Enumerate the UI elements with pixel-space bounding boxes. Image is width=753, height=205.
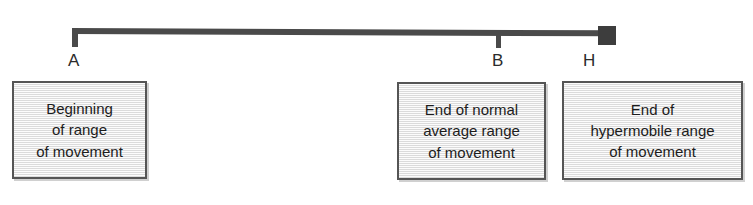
- marker-label-a: A: [68, 52, 79, 69]
- caption-box-h: End of hypermobile range of movement: [562, 81, 743, 180]
- marker-block-h: [598, 26, 616, 45]
- caption-box-a: Beginning of range of movement: [12, 81, 147, 179]
- scale-bar-group: A B H: [0, 0, 753, 80]
- marker-tick-b: [496, 32, 501, 48]
- caption-text-b: End of normal average range of movement: [417, 99, 526, 163]
- caption-box-b: End of normal average range of movement: [397, 82, 546, 180]
- scale-bar-line: [72, 28, 612, 36]
- marker-tick-a: [72, 28, 78, 47]
- marker-label-h: H: [583, 52, 595, 69]
- range-of-movement-diagram: A B H Beginning of range of movement End…: [0, 0, 753, 205]
- marker-label-b: B: [492, 52, 503, 69]
- caption-text-h: End of hypermobile range of movement: [584, 99, 720, 163]
- caption-text-a: Beginning of range of movement: [30, 98, 129, 162]
